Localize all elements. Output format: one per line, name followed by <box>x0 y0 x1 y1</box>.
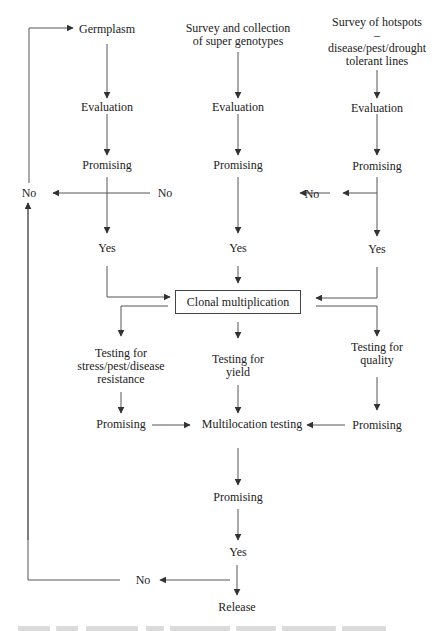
breeding-flowchart: Germplasm Survey and collection of super… <box>0 0 441 631</box>
node-promising-middle: Promising <box>213 159 262 172</box>
node-promising-quality: Promising <box>352 419 401 432</box>
feedback-line-bottom <box>28 203 120 580</box>
node-release: Release <box>218 601 255 614</box>
node-no-right: No <box>305 188 320 201</box>
node-testing-stress: Testing for stress/pest/disease resistan… <box>77 347 164 386</box>
node-no-bottom: No <box>136 574 151 587</box>
node-evaluation-right: Evaluation <box>351 102 403 115</box>
node-testing-yield: Testing for yield <box>212 353 264 379</box>
node-yes-right: Yes <box>368 243 385 256</box>
node-yes-final: Yes <box>229 546 246 559</box>
node-survey-hotspots: Survey of hotspots – disease/pest/drough… <box>328 16 426 68</box>
node-promising-final: Promising <box>213 491 262 504</box>
node-promising-stress: Promising <box>96 418 145 431</box>
node-multilocation-testing: Multilocation testing <box>202 418 302 431</box>
clonal-multiplication-label: Clonal multiplication <box>187 295 289 310</box>
node-evaluation-middle: Evaluation <box>212 101 264 114</box>
node-promising-right: Promising <box>352 160 401 173</box>
node-yes-middle: Yes <box>229 242 246 255</box>
node-testing-quality: Testing for quality <box>351 341 403 367</box>
node-promising-left: Promising <box>82 159 131 172</box>
node-no-middle: No <box>158 187 173 200</box>
node-germplasm: Germplasm <box>79 23 135 36</box>
node-evaluation-left: Evaluation <box>81 101 133 114</box>
flowchart-connectors <box>0 0 441 631</box>
feedback-line-top <box>29 28 73 183</box>
figure-caption-clipped <box>18 624 428 631</box>
node-yes-left: Yes <box>98 242 115 255</box>
node-clonal-multiplication: Clonal multiplication <box>175 290 301 314</box>
node-survey-genotypes: Survey and collection of super genotypes <box>186 22 291 48</box>
node-no-far-left: No <box>22 187 37 200</box>
